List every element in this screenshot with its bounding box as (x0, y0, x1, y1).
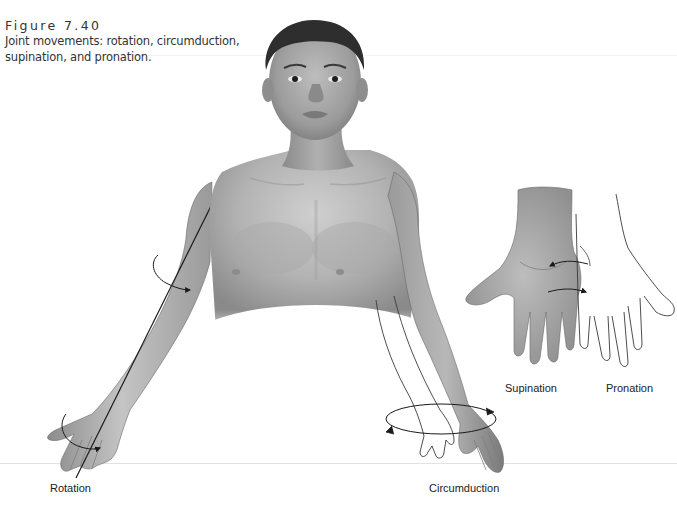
label-rotation: Rotation (50, 482, 91, 494)
label-pronation: Pronation (606, 382, 653, 394)
label-supination: Supination (505, 382, 557, 394)
label-circumduction: Circumduction (429, 482, 499, 494)
pronation-hand (576, 194, 674, 367)
circumduction-arrow-left-icon (386, 426, 394, 434)
figure: Figure 7.40 Joint movements: rotation, c… (0, 0, 677, 509)
head (262, 20, 368, 140)
anatomy-illustration (0, 0, 677, 509)
supination-hand (466, 187, 581, 364)
rotation-arm (48, 182, 216, 478)
